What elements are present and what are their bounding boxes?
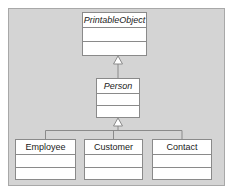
class-name-employee: Employee (16, 140, 75, 155)
class-operations-compartment (85, 168, 142, 180)
class-attributes-compartment (83, 28, 146, 42)
generalization-person-to-printableobject (114, 56, 123, 78)
hollow-triangle-arrowhead (114, 56, 123, 64)
class-attributes-compartment (97, 94, 139, 106)
class-name-printable-object: PrintableObject (83, 13, 146, 28)
class-box-printable-object[interactable]: PrintableObject (82, 12, 147, 56)
diagram-canvas: PrintableObject Person Employee Customer… (0, 0, 233, 195)
class-attributes-compartment (85, 155, 142, 168)
class-box-contact[interactable]: Contact (152, 139, 212, 180)
class-box-employee[interactable]: Employee (15, 139, 76, 180)
class-name-person: Person (97, 79, 139, 94)
class-operations-compartment (153, 168, 211, 180)
class-box-customer[interactable]: Customer (84, 139, 143, 180)
hollow-triangle-arrowhead (114, 118, 123, 126)
class-operations-compartment (97, 106, 139, 117)
class-operations-compartment (16, 168, 75, 180)
class-attributes-compartment (16, 155, 75, 168)
class-attributes-compartment (153, 155, 211, 168)
class-name-customer: Customer (85, 140, 142, 155)
class-operations-compartment (83, 42, 146, 55)
class-name-contact: Contact (153, 140, 211, 155)
class-box-person[interactable]: Person (96, 78, 140, 118)
generalization-subclasses-to-person (46, 118, 183, 139)
